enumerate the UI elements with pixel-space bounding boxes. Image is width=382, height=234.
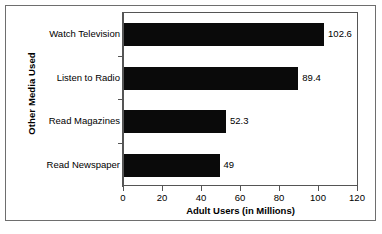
category-label: Watch Television <box>22 28 120 39</box>
plot-area <box>123 12 358 186</box>
x-axis-tick <box>279 186 280 191</box>
x-axis-tick <box>123 186 124 191</box>
category-label: Listen to Radio <box>22 72 120 83</box>
bar-value-label: 52.3 <box>230 115 249 126</box>
bar-value-label: 49 <box>224 159 235 170</box>
y-axis-tick <box>118 143 123 144</box>
x-axis-tick-label: 80 <box>264 192 294 203</box>
bar <box>124 67 298 90</box>
x-axis-tick <box>162 186 163 191</box>
x-axis-tick <box>201 186 202 191</box>
bar-chart-figure: Other Media Used Watch TelevisionListen … <box>0 0 382 234</box>
x-axis-tick-label: 0 <box>108 192 138 203</box>
bar-value-label: 89.4 <box>302 72 321 83</box>
bar-value-label: 102.6 <box>328 28 352 39</box>
y-axis-tick <box>118 99 123 100</box>
x-axis-tick-label: 20 <box>147 192 177 203</box>
x-axis-tick-label: 60 <box>225 192 255 203</box>
y-axis-tick <box>118 56 123 57</box>
category-label: Read Newspaper <box>22 159 120 170</box>
x-axis-tick-label: 100 <box>303 192 333 203</box>
category-axis-labels: Watch TelevisionListen to RadioRead Maga… <box>22 12 120 186</box>
category-label: Read Magazines <box>22 115 120 126</box>
bar <box>124 23 324 46</box>
x-axis-tick <box>318 186 319 191</box>
x-axis-tick <box>240 186 241 191</box>
bar <box>124 154 220 177</box>
x-axis-title: Adult Users (in Millions) <box>123 205 358 216</box>
x-axis-tick-label: 40 <box>186 192 216 203</box>
x-axis-tick <box>357 186 358 191</box>
bars-container <box>124 13 357 185</box>
bar <box>124 110 226 133</box>
x-axis-tick-label: 120 <box>342 192 372 203</box>
